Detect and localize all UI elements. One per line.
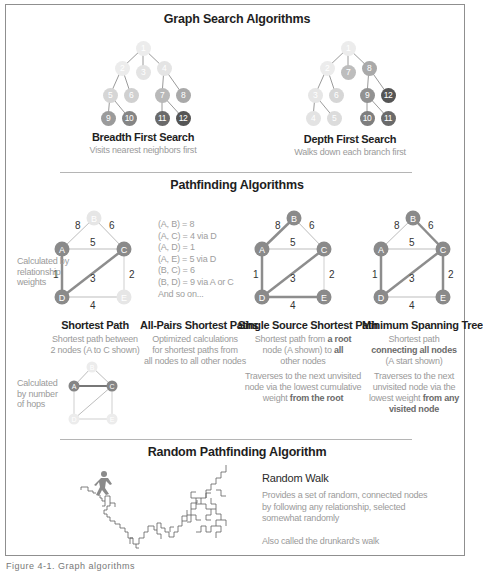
- random-walk-path: [81, 465, 226, 548]
- svg-text:6: 6: [428, 220, 434, 231]
- svg-text:E: E: [110, 416, 115, 423]
- svg-text:4: 4: [409, 300, 415, 311]
- bfs-node-8: 8: [176, 88, 191, 103]
- svg-text:C: C: [121, 245, 128, 255]
- random-walk-description: Provides a set of random, connected node…: [262, 490, 427, 525]
- svg-text:E: E: [121, 293, 127, 303]
- svg-text:D: D: [71, 416, 76, 423]
- svg-text:4: 4: [90, 300, 96, 311]
- bfs-node-6: 6: [124, 88, 139, 103]
- hops-graph: B A C D E: [69, 362, 118, 425]
- dfs-node-5: 5: [327, 111, 342, 126]
- svg-text:3: 3: [90, 273, 96, 284]
- svg-text:8: 8: [275, 220, 281, 231]
- svg-text:C: C: [440, 245, 447, 255]
- all-pairs-subtitle: Optimized calculations for shortest path…: [136, 334, 254, 367]
- random-walk-title: Random Walk: [262, 472, 328, 484]
- svg-text:D: D: [59, 293, 66, 303]
- svg-text:4: 4: [290, 300, 296, 311]
- bfs-node-2: 2: [115, 61, 130, 76]
- svg-text:5: 5: [90, 237, 96, 248]
- random-title: Random Pathfinding Algorithm: [0, 445, 474, 459]
- svg-text:E: E: [321, 293, 327, 303]
- random-walk-note: Also called the drunkard's walk: [262, 536, 379, 548]
- svg-text:5: 5: [409, 237, 415, 248]
- dfs-node-2: 2: [320, 61, 335, 76]
- svg-text:D: D: [259, 293, 266, 303]
- hops-note: Calculated by number of hops: [17, 378, 58, 410]
- svg-text:B: B: [90, 364, 95, 371]
- dfs-node-7: 7: [341, 65, 356, 80]
- svg-text:A: A: [59, 245, 65, 255]
- svg-text:8: 8: [75, 220, 81, 231]
- single-source-subtitle: Shortest path from a root node (A shown)…: [238, 334, 368, 404]
- svg-text:3: 3: [290, 273, 296, 284]
- mst-subtitle: Shortest path connecting all nodes (A st…: [362, 334, 466, 415]
- shortest-path-subtitle: Shortest path between 2 nodes (A to C sh…: [43, 334, 147, 356]
- svg-text:A: A: [378, 245, 384, 255]
- dfs-node-1: 1: [341, 41, 356, 56]
- svg-text:2: 2: [129, 269, 135, 280]
- all-pairs-list: (A, B) = 8 (A, C) = 4 via D (A, D) = 1 (…: [158, 219, 234, 300]
- bfs-node-4: 4: [157, 61, 172, 76]
- svg-text:1: 1: [372, 269, 378, 280]
- bfs-node-11: 11: [155, 111, 170, 126]
- svg-text:6: 6: [309, 220, 315, 231]
- bfs-node-10: 10: [122, 111, 137, 126]
- dfs-node-3: 3: [308, 88, 323, 103]
- svg-text:E: E: [440, 293, 446, 303]
- bfs-node-3: 3: [136, 65, 151, 80]
- svg-text:1: 1: [253, 269, 259, 280]
- walking-person-icon: [94, 471, 112, 496]
- dfs-node-8: 8: [362, 61, 377, 76]
- dfs-node-12: 12: [381, 88, 396, 103]
- svg-text:B: B: [91, 214, 97, 224]
- svg-text:A: A: [72, 383, 77, 390]
- svg-text:2: 2: [329, 269, 335, 280]
- svg-text:8: 8: [394, 220, 400, 231]
- shortest-path-title: Shortest Path: [43, 319, 147, 331]
- all-pairs-title: All-Pairs Shortest Paths: [140, 319, 250, 331]
- svg-text:A: A: [259, 245, 265, 255]
- svg-text:B: B: [410, 214, 416, 224]
- bfs-node-12: 12: [176, 111, 191, 126]
- dfs-node-9: 9: [360, 88, 375, 103]
- svg-text:C: C: [321, 245, 328, 255]
- weighted-graph-mst: 8 6 5 1 3 2 4 B A C D E: [372, 211, 454, 312]
- bfs-node-9: 9: [101, 111, 116, 126]
- svg-text:C: C: [109, 383, 114, 390]
- dfs-node-6: 6: [329, 88, 344, 103]
- mst-title: Minimum Spanning Tree: [362, 319, 466, 331]
- bfs-node-1: 1: [136, 41, 151, 56]
- svg-text:D: D: [378, 293, 385, 303]
- figure-caption: Figure 4-1. Graph algorithms: [6, 561, 135, 571]
- weighted-graph-single-source: 8 6 5 1 3 2 4 B A C D E: [253, 211, 335, 312]
- bfs-node-7: 7: [155, 88, 170, 103]
- bfs-node-5: 5: [103, 88, 118, 103]
- dfs-node-4: 4: [306, 111, 321, 126]
- single-source-title: Single Source Shortest Path: [238, 319, 368, 331]
- svg-text:5: 5: [290, 237, 296, 248]
- svg-text:3: 3: [409, 273, 415, 284]
- weights-note: Calculated by relationship weights: [17, 256, 69, 288]
- dfs-node-10: 10: [360, 111, 375, 126]
- svg-text:6: 6: [109, 220, 115, 231]
- section-divider: [60, 439, 412, 440]
- random-walk-illustration: [75, 460, 245, 550]
- svg-text:2: 2: [448, 269, 454, 280]
- dfs-node-11: 11: [381, 111, 396, 126]
- svg-text:B: B: [291, 214, 297, 224]
